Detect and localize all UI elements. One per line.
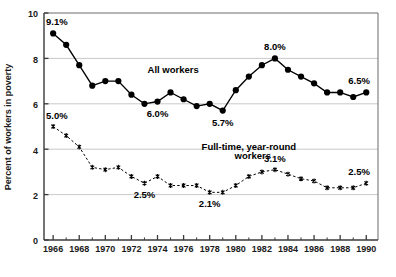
data-point <box>141 101 147 107</box>
data-point <box>167 89 173 95</box>
data-point <box>89 83 95 89</box>
y-tick-label-6: 6 <box>33 100 38 110</box>
y-axis-title: Percent of workers in poverty <box>3 64 13 191</box>
x-tick-label-1978: 1978 <box>200 244 220 254</box>
x-tick-label-1986: 1986 <box>304 244 324 254</box>
x-tick-label-1990: 1990 <box>356 244 376 254</box>
y-tick-label-10: 10 <box>28 9 38 19</box>
value-annotation: 9.1% <box>46 16 68 27</box>
value-annotation: 5.0% <box>46 110 68 121</box>
value-annotation: 2.5% <box>348 166 370 177</box>
data-point <box>246 73 252 79</box>
value-annotation: 6.5% <box>348 75 370 86</box>
x-tick-label-1976: 1976 <box>174 244 194 254</box>
x-tick-label-1972: 1972 <box>121 244 141 254</box>
data-point <box>337 89 343 95</box>
value-annotation: 8.0% <box>264 41 286 52</box>
data-point <box>233 87 239 93</box>
data-point <box>363 89 369 95</box>
value-annotation: 2.5% <box>134 189 156 200</box>
y-tick-label-2: 2 <box>33 191 38 201</box>
data-point <box>181 96 187 102</box>
series-inline-label: All workers <box>148 64 199 75</box>
x-tick-label-1970: 1970 <box>95 244 115 254</box>
data-point <box>63 42 69 48</box>
value-annotation: 5.7% <box>212 117 234 128</box>
data-point <box>272 55 278 61</box>
chart-background <box>0 0 396 277</box>
data-point <box>50 30 56 36</box>
data-point <box>285 67 291 73</box>
x-tick-label-1968: 1968 <box>69 244 89 254</box>
value-annotation: 6.0% <box>147 108 169 119</box>
data-point <box>154 98 160 104</box>
x-tick-label-1982: 1982 <box>252 244 272 254</box>
data-point <box>311 80 317 86</box>
series-inline-label: workers <box>234 150 271 161</box>
x-tick-label-1974: 1974 <box>147 244 167 254</box>
y-tick-label-4: 4 <box>33 146 38 156</box>
chart-canvas: 9.1%6.0%5.7%8.0%6.5%5.0%2.5%2.1%3.1%2.5%… <box>0 0 396 277</box>
data-point <box>350 94 356 100</box>
data-point <box>298 73 304 79</box>
data-point <box>324 89 330 95</box>
data-point <box>207 101 213 107</box>
x-tick-label-1984: 1984 <box>278 244 298 254</box>
data-point <box>128 92 134 98</box>
data-point <box>220 108 226 114</box>
data-point <box>115 78 121 84</box>
y-tick-label-0: 0 <box>33 236 38 246</box>
value-annotation: 2.1% <box>199 198 221 209</box>
data-point <box>102 78 108 84</box>
data-point <box>76 62 82 68</box>
data-point <box>259 62 265 68</box>
poverty-rate-line-chart: 9.1%6.0%5.7%8.0%6.5%5.0%2.5%2.1%3.1%2.5%… <box>0 0 396 277</box>
x-tick-label-1980: 1980 <box>226 244 246 254</box>
x-tick-label-1966: 1966 <box>43 244 63 254</box>
y-tick-label-8: 8 <box>33 55 38 65</box>
x-tick-label-1988: 1988 <box>330 244 350 254</box>
data-point <box>194 103 200 109</box>
